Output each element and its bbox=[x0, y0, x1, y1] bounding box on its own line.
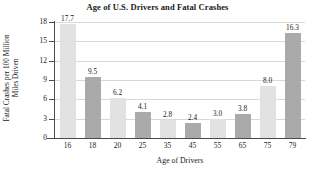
y-tick-label: 3 bbox=[27, 115, 47, 123]
chart-title: Age of U.S. Drivers and Fatal Crashes bbox=[0, 2, 315, 13]
bar-value-label: 3.0 bbox=[204, 110, 232, 118]
x-tick-label: 79 bbox=[279, 142, 307, 150]
bar-value-label: 9.5 bbox=[79, 68, 107, 76]
x-tick-label: 16 bbox=[54, 142, 82, 150]
bar-value-label: 17.7 bbox=[54, 15, 82, 23]
y-tick-label: 15 bbox=[27, 37, 47, 45]
x-tick-label: 45 bbox=[179, 142, 207, 150]
x-axis-title: Age of Drivers bbox=[55, 156, 305, 165]
x-tick-label: 35 bbox=[154, 142, 182, 150]
bar bbox=[285, 33, 301, 138]
x-tick-label: 55 bbox=[204, 142, 232, 150]
x-tick-label: 18 bbox=[79, 142, 107, 150]
bar bbox=[160, 120, 176, 138]
x-axis-line bbox=[47, 138, 306, 139]
bar-value-label: 3.8 bbox=[229, 105, 257, 113]
y-tick-label: 12 bbox=[27, 57, 47, 65]
y-tick-label: 9 bbox=[27, 76, 47, 84]
bar-value-label: 4.1 bbox=[129, 103, 157, 111]
bar-value-label: 8.0 bbox=[254, 77, 282, 85]
x-tick-label: 75 bbox=[254, 142, 282, 150]
bar bbox=[260, 86, 276, 138]
y-tick-label: 18 bbox=[27, 18, 47, 26]
bar-chart-figure: Age of U.S. Drivers and Fatal Crashes Fa… bbox=[0, 0, 315, 173]
x-tick-label: 20 bbox=[104, 142, 132, 150]
bar-value-label: 2.8 bbox=[154, 111, 182, 119]
bar-value-label: 2.4 bbox=[179, 114, 207, 122]
y-axis-title-line-1: Fatal Crashes per 100 Million bbox=[2, 16, 11, 140]
x-tick-label: 65 bbox=[229, 142, 257, 150]
bar bbox=[210, 119, 226, 138]
bar bbox=[135, 112, 151, 138]
y-axis-title: Fatal Crashes per 100 Million Miles Driv… bbox=[2, 16, 24, 140]
bar-value-label: 6.2 bbox=[104, 89, 132, 97]
bar bbox=[85, 77, 101, 138]
y-axis-title-line-2: Miles Driven bbox=[11, 16, 20, 140]
bar bbox=[110, 98, 126, 138]
y-tick-label: 6 bbox=[27, 95, 47, 103]
bar bbox=[60, 24, 76, 138]
bar-value-label: 16.3 bbox=[279, 24, 307, 32]
bar bbox=[185, 123, 201, 138]
y-tick-label: 0 bbox=[27, 134, 47, 142]
x-tick-label: 25 bbox=[129, 142, 157, 150]
bar bbox=[235, 114, 251, 138]
plot-area: 17.79.56.24.12.82.43.03.88.016.3 bbox=[55, 22, 305, 138]
